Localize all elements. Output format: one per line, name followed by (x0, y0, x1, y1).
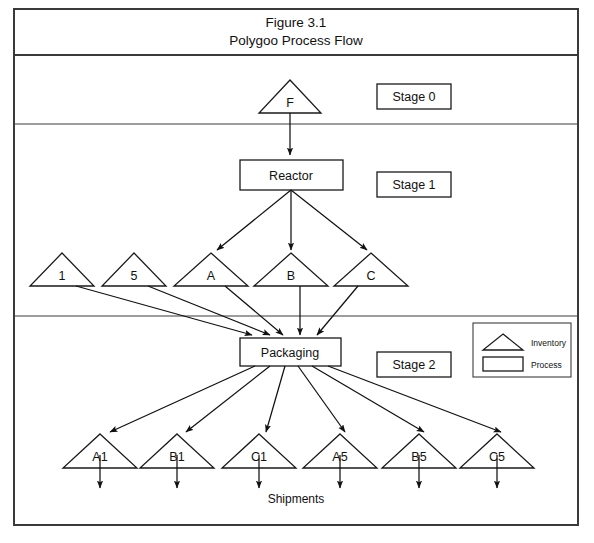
process-label-packaging: Packaging (261, 346, 319, 360)
figure-title-line1: Figure 3.1 (266, 15, 327, 30)
process-label-reactor: Reactor (269, 169, 313, 183)
legend-label-process: Process (531, 360, 562, 370)
inventory-label-5: 5 (131, 269, 138, 283)
arrow-1-to-packaging (76, 286, 252, 335)
arrow-packaging-to-B1 (186, 366, 270, 432)
inventory-label-A: A (207, 269, 216, 283)
arrow-packaging-to-A5 (298, 366, 345, 432)
process-flow-diagram: Figure 3.1 Polygoo Process Flow F Stage … (0, 0, 594, 543)
arrow-C-to-packaging (317, 286, 358, 335)
arrow-A-to-packaging (225, 286, 283, 335)
stage-label-2: Stage 2 (392, 358, 435, 372)
arrow-packaging-to-A1 (110, 366, 255, 432)
stage-label-0: Stage 0 (392, 90, 435, 104)
figure-title-line2: Polygoo Process Flow (229, 33, 363, 48)
arrow-packaging-to-C1 (266, 366, 285, 432)
shipments-label: Shipments (268, 492, 325, 506)
inventory-label-B: B (287, 269, 295, 283)
stage-label-1: Stage 1 (392, 178, 435, 192)
figure-container: Figure 3.1 Polygoo Process Flow F Stage … (0, 0, 594, 543)
arrow-reactor-to-C (291, 190, 367, 250)
inventory-label-1: 1 (59, 269, 66, 283)
inventory-label-F: F (286, 96, 294, 110)
legend-process-icon (483, 357, 523, 371)
arrow-reactor-to-A (217, 190, 291, 250)
inventory-label-C: C (366, 269, 375, 283)
legend-label-inventory: Inventory (531, 338, 567, 348)
